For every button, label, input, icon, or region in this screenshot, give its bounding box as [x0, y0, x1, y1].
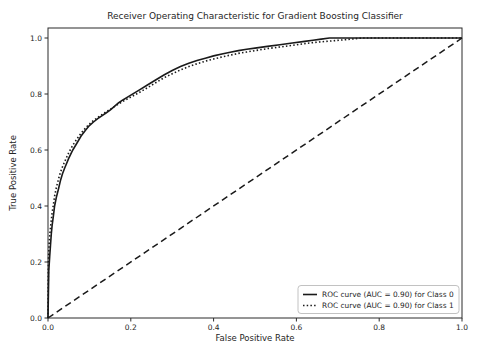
- y-tick-label: 0.2: [30, 258, 42, 267]
- x-tick-label: 0.0: [42, 323, 54, 332]
- legend-label-class0: ROC curve (AUC = 0.90) for Class 0: [322, 290, 454, 299]
- y-tick-label: 1.0: [30, 34, 42, 43]
- x-tick-label: 0.4: [208, 323, 220, 332]
- chart-title: Receiver Operating Characteristic for Gr…: [107, 11, 403, 21]
- x-tick-label: 0.8: [373, 323, 385, 332]
- legend: ROC curve (AUC = 0.90) for Class 0 ROC c…: [298, 286, 459, 314]
- y-tick-label: 0.4: [30, 202, 42, 211]
- roc-chart: Receiver Operating Characteristic for Gr…: [0, 0, 485, 354]
- plot-area-border: [48, 28, 462, 318]
- x-tick-label: 0.6: [290, 323, 302, 332]
- x-tick-label: 0.2: [125, 323, 137, 332]
- y-tick-label: 0.0: [30, 314, 42, 323]
- chance-diagonal-line: [48, 38, 462, 318]
- y-axis-ticks: 0.00.20.40.60.81.0: [30, 34, 48, 323]
- y-tick-label: 0.8: [30, 90, 42, 99]
- x-axis-ticks: 0.00.20.40.60.81.0: [42, 318, 468, 332]
- x-axis-label: False Positive Rate: [216, 333, 295, 343]
- legend-label-class1: ROC curve (AUC = 0.90) for Class 1: [322, 301, 454, 310]
- y-tick-label: 0.6: [30, 146, 42, 155]
- x-tick-label: 1.0: [456, 323, 468, 332]
- y-axis-label: True Positive Rate: [8, 135, 18, 212]
- roc-chart-figure: Receiver Operating Characteristic for Gr…: [0, 0, 485, 354]
